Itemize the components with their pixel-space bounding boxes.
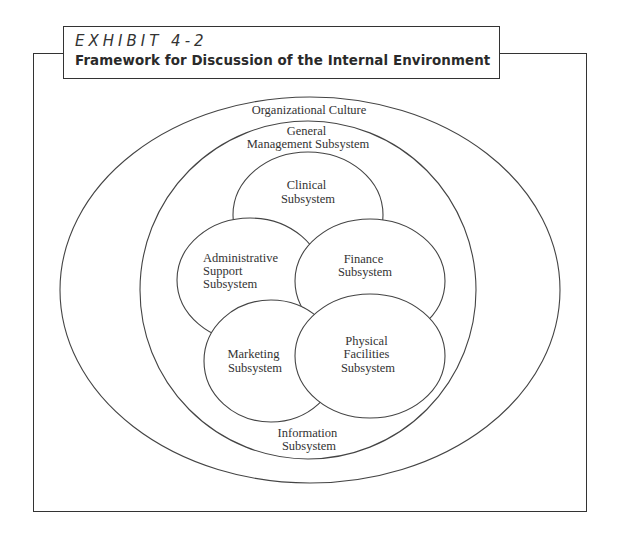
- physical-facilities-label: Physical Facilities Subsystem: [341, 334, 395, 375]
- clinical-label: Clinical Subsystem: [281, 178, 335, 206]
- exhibit-title: Framework for Discussion of the Internal…: [75, 52, 499, 70]
- finance-label: Finance Subsystem: [338, 252, 392, 279]
- organizational-culture-label: Organizational Culture: [252, 103, 367, 117]
- exhibit-number: EXHIBIT 4-2: [75, 32, 499, 50]
- information-label: Information Subsystem: [278, 426, 341, 453]
- marketing-label: Marketing Subsystem: [227, 347, 282, 375]
- exhibit-title-box: EXHIBIT 4-2 Framework for Discussion of …: [63, 26, 500, 79]
- internal-environment-diagram: Organizational Culture General Managemen…: [0, 0, 619, 539]
